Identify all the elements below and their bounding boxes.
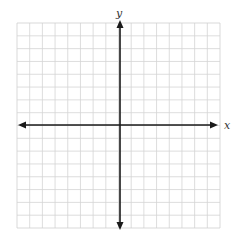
y-axis-label: y <box>116 8 122 19</box>
x-axis-right-arrow-icon <box>210 122 218 129</box>
x-axis-left-arrow-icon <box>18 122 26 129</box>
y-axis-down-arrow-icon <box>117 222 124 230</box>
axes <box>18 20 218 230</box>
coordinate-plane: y x <box>0 0 237 239</box>
grid-graph <box>0 0 237 239</box>
x-axis-label: x <box>224 120 230 131</box>
y-axis-up-arrow-icon <box>117 20 124 28</box>
